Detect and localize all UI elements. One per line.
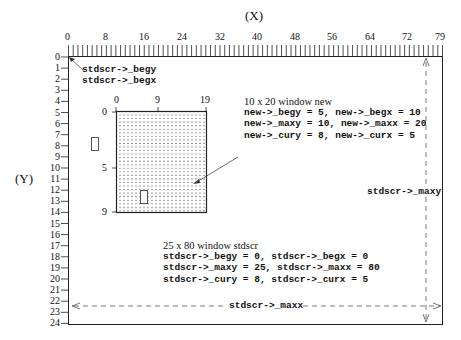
new-y-tick: 0: [102, 106, 107, 117]
stdscr-title: 25 x 80 window stdscr: [163, 240, 380, 251]
stdscr-begx-label: stdscr->_begx: [82, 75, 156, 86]
stdscr-maxx-label: stdscr->_maxx: [229, 300, 303, 311]
stdscr-begy-label: stdscr->_begy: [82, 64, 156, 75]
stdscr-max: stdscr->_maxy = 25, stdscr->_maxx = 80: [163, 262, 380, 273]
new-y-tick: 5: [102, 162, 107, 173]
new-window-beg: new->_begy = 5, new->_begx = 10: [244, 107, 426, 118]
stdscr-cur: stdscr->_cury = 8, stdscr->_curx = 5: [163, 274, 380, 285]
new-window-info: 10 x 20 window new new->_begy = 5, new->…: [244, 96, 426, 141]
stdscr-cursor-icon: [91, 137, 99, 151]
diagram-graphics: [0, 0, 461, 340]
stdscr-maxy-label: stdscr->_maxy: [367, 186, 441, 197]
new-y-tick: 9: [102, 206, 107, 217]
new-x-tick: 9: [155, 94, 160, 105]
new-cursor-icon: [140, 190, 148, 204]
new-window-max: new->_maxy = 10, new->_maxx = 20: [244, 118, 426, 129]
new-x-tick: 19: [200, 94, 210, 105]
stdscr-info: 25 x 80 window stdscr stdscr->_begy = 0,…: [163, 240, 380, 285]
new-window-cur: new->_cury = 8, new->_curx = 5: [244, 130, 426, 141]
new-x-tick: 0: [114, 94, 119, 105]
new-window-title: 10 x 20 window new: [244, 96, 426, 107]
stdscr-beg: stdscr->_begy = 0, stdscr->_begx = 0: [163, 251, 380, 262]
